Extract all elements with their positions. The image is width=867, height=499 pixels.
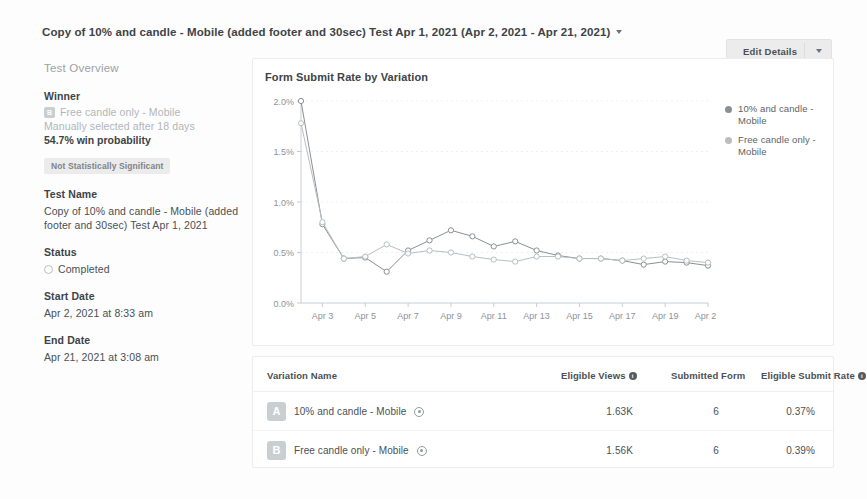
page-title-text: Copy of 10% and candle - Mobile (added f… xyxy=(42,26,610,38)
chart-legend: 10% and candle - MobileFree candle only … xyxy=(725,103,825,165)
svg-text:0.0%: 0.0% xyxy=(273,299,294,309)
column-header-eligible-views-label: Eligible Views xyxy=(561,370,626,381)
variation-table: Variation Name Eligible Viewsi Submitted… xyxy=(253,357,833,469)
cell-eligible-views: 1.63K xyxy=(553,406,633,417)
table-body: A10% and candle - Mobile1.63K60.37%BFree… xyxy=(253,392,833,469)
svg-text:Apr 19: Apr 19 xyxy=(652,311,679,321)
variation-cell: BFree candle only - Mobile xyxy=(267,441,427,460)
svg-text:Apr 13: Apr 13 xyxy=(523,311,550,321)
status-value: Completed xyxy=(58,262,110,276)
svg-text:Apr 5: Apr 5 xyxy=(355,311,377,321)
legend-item[interactable]: Free candle only - Mobile xyxy=(725,134,825,158)
edit-details-label: Edit Details xyxy=(743,46,797,57)
line-chart[interactable]: 0.0%0.5%1.0%1.5%2.0%Apr 3Apr 5Apr 7Apr 9… xyxy=(261,93,716,333)
start-date-field: Start Date Apr 2, 2021 at 8:33 am xyxy=(44,290,240,320)
svg-text:Apr 17: Apr 17 xyxy=(609,311,636,321)
test-overview-sidebar: Test Overview Winner B Free candle only … xyxy=(44,62,240,378)
page-header: Copy of 10% and candle - Mobile (added f… xyxy=(0,18,867,54)
table-header-row: Variation Name Eligible Viewsi Submitted… xyxy=(253,357,833,392)
table-row[interactable]: A10% and candle - Mobile1.63K60.37% xyxy=(253,392,833,431)
button-divider xyxy=(804,43,805,59)
sidebar-section-title: Test Overview xyxy=(44,62,240,74)
column-header-eligible-views: Eligible Viewsi xyxy=(561,370,637,381)
legend-label: Free candle only - Mobile xyxy=(738,134,825,158)
win-probability: 54.7% win probability xyxy=(44,134,240,146)
preview-eye-icon[interactable] xyxy=(414,407,424,417)
status-field: Status Completed xyxy=(44,246,240,276)
cell-submitted-form: 6 xyxy=(653,445,719,456)
variation-cell: A10% and candle - Mobile xyxy=(267,402,424,421)
variation-table-card: Variation Name Eligible Viewsi Submitted… xyxy=(252,356,834,468)
status-circle-icon xyxy=(44,265,53,274)
test-name-value: Copy of 10% and candle - Mobile (added f… xyxy=(44,204,240,232)
info-icon[interactable]: i xyxy=(858,372,866,380)
legend-dot-icon xyxy=(725,137,732,144)
legend-label: 10% and candle - Mobile xyxy=(738,103,825,127)
svg-text:1.5%: 1.5% xyxy=(273,147,294,157)
column-header-submitted-form: Submitted Form xyxy=(671,370,745,381)
svg-text:Apr 3: Apr 3 xyxy=(312,311,334,321)
chevron-down-icon[interactable] xyxy=(816,49,822,53)
svg-text:0.5%: 0.5% xyxy=(273,248,294,258)
start-date-label: Start Date xyxy=(44,290,240,302)
svg-text:Apr 9: Apr 9 xyxy=(440,311,462,321)
svg-text:2.0%: 2.0% xyxy=(273,97,294,107)
table-row[interactable]: BFree candle only - Mobile1.56K60.39% xyxy=(253,431,833,469)
winner-variation: B Free candle only - Mobile xyxy=(44,106,240,118)
column-header-eligible-submit-rate: Eligible Submit Ratei xyxy=(761,370,866,381)
page-title[interactable]: Copy of 10% and candle - Mobile (added f… xyxy=(42,26,622,38)
svg-text:Apr 21: Apr 21 xyxy=(695,311,716,321)
column-header-eligible-submit-rate-label: Eligible Submit Rate xyxy=(761,370,855,381)
page-background: Copy of 10% and candle - Mobile (added f… xyxy=(0,0,867,499)
variation-badge: B xyxy=(44,107,55,118)
cell-eligible-views: 1.56K xyxy=(553,445,633,456)
svg-text:Apr 11: Apr 11 xyxy=(481,311,507,321)
end-date-field: End Date Apr 21, 2021 at 3:08 am xyxy=(44,334,240,364)
legend-item[interactable]: 10% and candle - Mobile xyxy=(725,103,825,127)
winner-field: Winner B Free candle only - Mobile Manua… xyxy=(44,90,240,174)
test-name-label: Test Name xyxy=(44,188,240,200)
chart-title: Form Submit Rate by Variation xyxy=(265,71,428,83)
winner-subtitle: Manually selected after 18 days xyxy=(44,120,240,132)
column-header-variation-name: Variation Name xyxy=(267,370,337,381)
variation-badge: A xyxy=(267,402,286,421)
svg-text:Apr 15: Apr 15 xyxy=(566,311,593,321)
end-date-value: Apr 21, 2021 at 3:08 am xyxy=(44,350,240,364)
cell-eligible-submit-rate: 0.39% xyxy=(739,445,815,456)
winner-label: Winner xyxy=(44,90,240,102)
svg-text:1.0%: 1.0% xyxy=(273,198,294,208)
svg-text:Apr 7: Apr 7 xyxy=(397,311,419,321)
variation-name: Free candle only - Mobile xyxy=(294,445,409,456)
variation-name: 10% and candle - Mobile xyxy=(294,406,406,417)
chart-card: Form Submit Rate by Variation 0.0%0.5%1.… xyxy=(252,58,834,346)
start-date-value: Apr 2, 2021 at 8:33 am xyxy=(44,306,240,320)
cell-submitted-form: 6 xyxy=(653,406,719,417)
variation-badge: B xyxy=(267,441,286,460)
chart-svg: 0.0%0.5%1.0%1.5%2.0%Apr 3Apr 5Apr 7Apr 9… xyxy=(261,93,716,333)
chevron-down-icon[interactable] xyxy=(616,30,622,34)
status-badge: Not Statistically Significant xyxy=(44,158,170,174)
status-label: Status xyxy=(44,246,240,258)
cell-eligible-submit-rate: 0.37% xyxy=(739,406,815,417)
winner-variation-name: Free candle only - Mobile xyxy=(60,106,180,118)
info-icon[interactable]: i xyxy=(629,372,637,380)
test-name-field: Test Name Copy of 10% and candle - Mobil… xyxy=(44,188,240,232)
end-date-label: End Date xyxy=(44,334,240,346)
legend-dot-icon xyxy=(725,106,732,113)
preview-eye-icon[interactable] xyxy=(417,446,427,456)
